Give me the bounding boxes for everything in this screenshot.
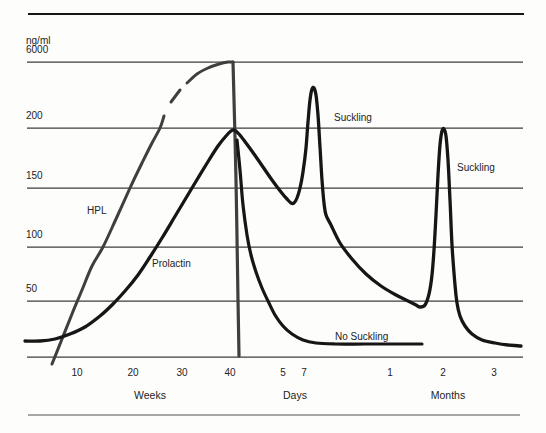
curve-hpl-delivery-drop — [233, 62, 239, 356]
curve-prolactin-suckling — [25, 87, 521, 346]
x-axis-group-label: Months — [431, 389, 465, 401]
x-tick-label-weeks: 10 — [71, 367, 83, 378]
y-axis-unit-label: ng/ml — [26, 35, 50, 46]
annotation-suckling: Suckling — [334, 112, 372, 123]
x-axis-group-label: Days — [283, 389, 307, 401]
x-tick-label-weeks: 40 — [224, 367, 236, 378]
x-tick-label-months: 1 — [387, 367, 393, 378]
y-tick-label: 50 — [26, 283, 38, 294]
x-tick-label-days: 5 — [280, 367, 286, 378]
x-axis-group-label: Weeks — [134, 389, 166, 401]
curve-hpl-peak — [187, 62, 233, 83]
y-tick-label: 100 — [26, 229, 43, 240]
annotation-hpl: HPL — [87, 205, 107, 216]
x-tick-label-weeks: 30 — [176, 367, 188, 378]
y-tick-label: 200 — [26, 110, 43, 121]
x-tick-label-days: 7 — [301, 367, 307, 378]
curve-hpl-rise — [52, 116, 164, 364]
x-tick-label-months: 2 — [440, 367, 446, 378]
annotation-suckling: Suckling — [457, 162, 495, 173]
hormone-levels-figure: 600020015010050ng/ml10203040Weeks57Days1… — [0, 0, 546, 433]
y-tick-label: 150 — [26, 170, 43, 181]
curve-hpl-dash — [171, 90, 180, 102]
chart-svg: 600020015010050ng/ml10203040Weeks57Days1… — [0, 0, 546, 433]
annotation-no-suckling: No Suckling — [335, 331, 388, 342]
annotation-prolactin: Prolactin — [152, 258, 191, 269]
x-tick-label-weeks: 20 — [127, 367, 139, 378]
x-tick-label-months: 3 — [491, 367, 497, 378]
